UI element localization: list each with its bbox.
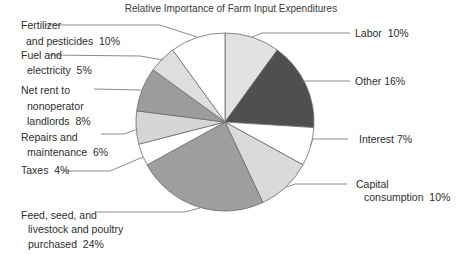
callout-feed-line3: purchased 24% xyxy=(28,238,104,250)
pie-chart-figure: Relative Importance of Farm Input Expend… xyxy=(0,0,461,254)
callout-taxes: Taxes 4% xyxy=(21,164,69,176)
leader-line-feed xyxy=(97,208,200,212)
callout-taxes-line1: Taxes 4% xyxy=(21,164,69,176)
leader-line-capital xyxy=(287,184,347,187)
callout-fuel: Fuel and electricity 5% xyxy=(21,49,92,76)
callout-capital-line2: consumption 10% xyxy=(364,191,450,203)
callout-net-rent-line2: nonoperator xyxy=(27,100,84,112)
callout-feed-line1: Feed, seed, and xyxy=(21,209,97,221)
pie-chart-canvas: Relative Importance of Farm Input Expend… xyxy=(0,0,461,254)
callout-feed: Feed, seed, and livestock and poultry pu… xyxy=(21,209,124,250)
callout-fuel-line1: Fuel and xyxy=(21,49,62,61)
leader-line-interest xyxy=(310,139,348,146)
callout-net-rent: Net rent to nonoperator landlords 8% xyxy=(21,84,91,127)
leader-line-labor xyxy=(252,33,350,37)
callout-repairs-line2: maintenance 6% xyxy=(27,146,108,158)
callout-fertilizer-line1: Fertilizer xyxy=(21,19,62,31)
callout-repairs: Repairs and maintenance 6% xyxy=(21,131,108,158)
leader-line-net-rent xyxy=(94,89,141,90)
callout-fuel-line2: electricity 5% xyxy=(27,64,92,76)
callout-feed-line2: livestock and poultry xyxy=(28,223,124,235)
callout-other: Other 16% xyxy=(355,75,405,87)
callout-labor-line1: Labor 10% xyxy=(355,27,409,39)
leader-line-fuel xyxy=(49,55,163,60)
callout-capital: Capital consumption 10% xyxy=(356,178,450,203)
callout-interest: Interest 7% xyxy=(359,133,412,145)
callout-fertilizer: Fertilizer and pesticides 10% xyxy=(21,19,120,47)
callout-fertilizer-line2: and pesticides 10% xyxy=(26,35,120,47)
leader-line-repairs xyxy=(101,129,138,134)
chart-title: Relative Importance of Farm Input Expend… xyxy=(125,3,337,14)
callout-labor: Labor 10% xyxy=(355,27,409,39)
callout-repairs-line1: Repairs and xyxy=(21,131,78,143)
callout-other-line1: Other 16% xyxy=(355,75,405,87)
callout-net-rent-line1: Net rent to xyxy=(21,84,70,96)
callout-interest-line1: Interest 7% xyxy=(359,133,412,145)
leader-line-taxes xyxy=(63,157,143,171)
callout-net-rent-line3: landlords 8% xyxy=(27,115,91,127)
callout-capital-line1: Capital xyxy=(356,178,389,190)
